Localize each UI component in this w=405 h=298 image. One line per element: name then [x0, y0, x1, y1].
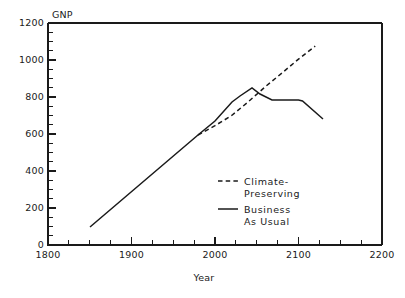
y-tick-label-600: 600: [25, 128, 44, 139]
x-tick-label-2100: 2100: [286, 249, 311, 260]
legend-label-climate-line2: Preserving: [244, 188, 300, 199]
y-tick-label-800: 800: [25, 91, 44, 102]
x-axis-ticks: [48, 237, 382, 245]
x-tick-label-1800: 1800: [36, 249, 61, 260]
legend-label-business-line1: Business: [244, 204, 291, 215]
y-axis-title: GNP: [52, 9, 73, 20]
axis-frame: [48, 23, 382, 245]
x-tick-label-2000: 2000: [203, 249, 228, 260]
series-group: [90, 46, 323, 227]
gnp-line-chart: 0 200 400 600 800 1000 1200 1800 1900 20…: [0, 0, 405, 298]
x-tick-labels: 1800 1900 2000 2100 2200: [36, 249, 395, 260]
legend-label-climate-line1: Climate-: [244, 176, 289, 187]
legend: Climate- Preserving Business As Usual: [218, 176, 300, 227]
y-tick-label-200: 200: [25, 202, 44, 213]
y-tick-label-1000: 1000: [19, 54, 44, 65]
chart-figure: 0 200 400 600 800 1000 1200 1800 1900 20…: [0, 0, 405, 298]
x-tick-label-2200: 2200: [370, 249, 395, 260]
legend-label-business-line2: As Usual: [244, 216, 290, 227]
x-axis-title: Year: [193, 272, 215, 283]
y-axis-ticks: [48, 23, 56, 245]
x-tick-label-1900: 1900: [119, 249, 144, 260]
y-tick-label-1200: 1200: [19, 17, 44, 28]
y-tick-labels: 0 200 400 600 800 1000 1200: [19, 17, 44, 250]
axis-left-bottom: [48, 23, 382, 245]
y-tick-label-400: 400: [25, 165, 44, 176]
